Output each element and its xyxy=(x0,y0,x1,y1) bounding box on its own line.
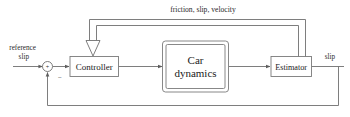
block-car-dynamics[interactable]: Car dynamics xyxy=(163,41,229,92)
car-dynamics-label-line1: Car xyxy=(188,54,204,66)
controller-label: Controller xyxy=(76,62,113,72)
output-slip-label: slip xyxy=(325,53,336,61)
summing-junction: + − xyxy=(43,62,63,83)
reference-slip-label-line2: slip xyxy=(19,53,30,61)
car-dynamics-label-line2: dynamics xyxy=(174,67,216,79)
estimator-label: Estimator xyxy=(275,63,307,72)
block-diagram-canvas: + − Controller Car dynamics Estimator re… xyxy=(0,0,350,117)
feedback-bus-arrowhead-icon xyxy=(86,41,100,57)
summing-junction-minus-sign: − xyxy=(58,74,62,82)
feedback-bus-label: friction, slip, velocity xyxy=(170,5,236,14)
reference-slip-label-line1: reference xyxy=(9,44,36,52)
block-estimator[interactable]: Estimator xyxy=(271,57,312,77)
block-controller[interactable]: Controller xyxy=(70,57,119,77)
block-diagram-svg: + − Controller Car dynamics Estimator re… xyxy=(0,0,350,117)
